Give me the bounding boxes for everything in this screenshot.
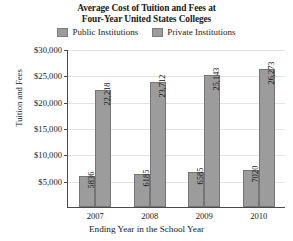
bar-2008-public[interactable]: 6185 [134,174,150,207]
y-axis-title: Tuition and Fees [14,58,24,138]
chart-title: Average Cost of Tuition and Fees at Four… [0,3,293,25]
bar-2010-private[interactable]: 26,273 [259,69,275,207]
bar-value-label: 25,143 [212,67,221,90]
bar-2009-public[interactable]: 6585 [188,172,204,207]
y-tick-label: $30,000 [34,45,62,55]
y-tick-label: $10,000 [34,150,62,160]
y-tick-label: $25,000 [34,71,62,81]
bar-2007-public[interactable]: 5836 [79,176,95,207]
bar-2008-private[interactable]: 23,712 [150,82,166,207]
bar-value-label: 26,273 [267,61,276,84]
x-axis-title: Ending Year in the School Year [0,224,293,234]
bar-chart: Average Cost of Tuition and Fees at Four… [0,0,293,241]
x-tick-label: 2009 [196,211,213,221]
bar-2007-private[interactable]: 22,218 [95,90,111,207]
legend-item-1[interactable]: Public Institutions [57,27,138,37]
y-tick-label: $15,000 [34,124,62,134]
legend-label: Private Institutions [167,27,235,37]
chart-title-line-1: Average Cost of Tuition and Fees at [0,3,293,14]
x-tick-label: 2010 [250,211,267,221]
y-tick-label: $20,000 [34,98,62,108]
legend-label: Public Institutions [72,27,138,37]
chart-title-line-2: Four-Year United States Colleges [0,14,293,25]
plot-area-wrapper: $30,000$25,000$20,000$15,000$10,000$5,00… [67,50,285,208]
bar-2010-public[interactable]: 7020 [243,170,259,207]
bar-value-label: 23,712 [158,75,167,98]
bar-value-label: 22,218 [103,82,112,105]
x-tick-label: 2008 [141,211,158,221]
chart-legend: Public InstitutionsPrivate Institutions [0,27,293,37]
legend-item-2[interactable]: Private Institutions [152,27,235,37]
legend-swatch-icon [57,28,68,37]
legend-swatch-icon [152,28,163,37]
x-tick-label: 2007 [87,211,104,221]
y-tick-label: $5,000 [38,177,62,187]
plot-area: $30,000$25,000$20,000$15,000$10,000$5,00… [67,50,285,208]
bars-layer: 583622,218618523,712658525,143702026,273 [68,50,285,207]
bar-2009-private[interactable]: 25,143 [204,75,220,207]
